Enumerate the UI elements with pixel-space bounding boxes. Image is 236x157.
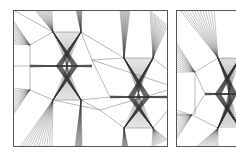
fan-line (176, 113, 192, 116)
left-panel (13, 10, 168, 147)
mesh-edge (30, 32, 53, 45)
fan-line (152, 128, 153, 147)
fan-line (153, 25, 168, 58)
fan-line (153, 128, 163, 142)
fan-line (200, 10, 218, 58)
fan-line (153, 18, 159, 59)
fan-line (13, 24, 30, 45)
fan-line (183, 10, 218, 58)
mesh-edge (192, 115, 218, 128)
mesh-edge (81, 32, 124, 58)
mesh-edge (92, 60, 110, 97)
mesh-diagram (0, 0, 236, 157)
fan-line (13, 32, 30, 45)
mesh-edge (92, 58, 124, 60)
fan-line (39, 100, 53, 147)
fan-line (150, 10, 153, 58)
mesh-edge (192, 94, 205, 115)
fan-line (203, 10, 218, 58)
fan-line (176, 115, 192, 138)
fan-line (25, 100, 53, 147)
mesh-edge (30, 90, 53, 100)
fan-line (13, 20, 30, 45)
fan-line (28, 100, 53, 147)
fan-line (191, 10, 218, 58)
fan-line (42, 10, 53, 32)
fan-line (13, 90, 30, 115)
fan-line (152, 11, 154, 58)
fan-line (189, 10, 219, 58)
mesh-edge (81, 100, 100, 110)
mesh-edge (81, 97, 110, 100)
mesh-edge (53, 100, 100, 110)
fan-line (176, 50, 195, 73)
mesh-edge (81, 32, 92, 60)
fan-line (153, 21, 164, 58)
fan-line (20, 100, 53, 147)
right-panel (176, 10, 236, 147)
fan-line (203, 128, 218, 147)
fan-line (176, 62, 195, 72)
mesh-edge (195, 58, 218, 72)
fan-line (176, 115, 192, 135)
fan-line (13, 90, 30, 108)
mesh-edge (153, 110, 168, 128)
fan-line (31, 100, 53, 147)
mesh-edge (195, 72, 205, 94)
fan-line (202, 128, 219, 147)
fan-line (38, 10, 53, 32)
fan-line (176, 110, 192, 115)
fan-line (13, 90, 30, 111)
fan-line (13, 88, 30, 90)
fan-line (13, 90, 30, 102)
fan-line (36, 100, 53, 147)
fan-line (176, 52, 195, 72)
mesh-edge (100, 110, 124, 128)
mesh-edge (153, 58, 168, 70)
